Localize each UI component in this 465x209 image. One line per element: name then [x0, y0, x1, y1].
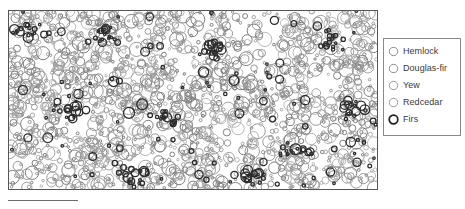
figure-root: Hemlock Douglas-fir Yew Redcedar Firs [0, 0, 465, 209]
legend-item-yew[interactable]: Yew [388, 77, 460, 94]
scale-bar [8, 200, 78, 201]
legend-item-hemlock[interactable]: Hemlock [388, 43, 460, 60]
open-circle-icon [388, 97, 399, 108]
open-circle-icon [388, 114, 399, 125]
legend-item-label: Firs [403, 114, 418, 125]
legend-item-douglas-fir[interactable]: Douglas-fir [388, 60, 460, 77]
legend-item-label: Redcedar [403, 97, 442, 108]
plot-frame [8, 10, 378, 190]
legend-item-firs[interactable]: Firs [388, 111, 460, 128]
legend-item-label: Hemlock [403, 46, 438, 57]
legend-item-label: Douglas-fir [403, 63, 447, 74]
open-circle-icon [388, 46, 399, 57]
species-legend: Hemlock Douglas-fir Yew Redcedar Firs [383, 38, 461, 136]
open-circle-icon [388, 63, 399, 74]
legend-item-label: Yew [403, 80, 420, 91]
legend-item-redcedar[interactable]: Redcedar [388, 94, 460, 111]
scatter-point-canvas [9, 11, 377, 189]
open-circle-icon [388, 80, 399, 91]
